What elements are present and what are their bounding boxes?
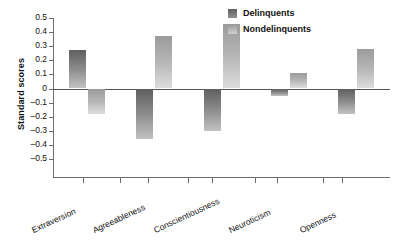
y-axis-tick bbox=[49, 74, 54, 75]
bar-delinquents bbox=[338, 89, 355, 114]
x-axis-tick bbox=[277, 177, 278, 183]
y-axis-tick-label: –0.5 bbox=[19, 153, 47, 164]
legend-label-nondelinquents: Nondelinquents bbox=[243, 24, 311, 34]
bar-delinquents bbox=[204, 89, 221, 131]
x-axis-category-label: Neuroticism bbox=[227, 207, 272, 235]
y-axis-tick bbox=[49, 60, 54, 61]
y-axis-title: Standard scores bbox=[16, 34, 26, 154]
y-axis-tick bbox=[49, 32, 54, 33]
bar-delinquents bbox=[136, 89, 153, 140]
x-axis-tick bbox=[83, 177, 84, 183]
y-axis-tick bbox=[49, 46, 54, 47]
x-axis-category-label: Openness bbox=[298, 210, 337, 235]
bar-nondelinquents bbox=[290, 73, 307, 89]
bar-nondelinquents bbox=[88, 89, 105, 114]
plot-area: 0.50.40.30.20.10–0.1–0.2–0.3–0.4–0.5 bbox=[53, 18, 390, 178]
y-axis-tick-label: 0.2 bbox=[19, 54, 47, 65]
legend-item-nondelinquents: Nondelinquents bbox=[228, 22, 311, 36]
y-axis-tick-label: 0.1 bbox=[19, 68, 47, 79]
x-axis-tick bbox=[148, 177, 149, 183]
legend-item-delinquents: Delinquents bbox=[228, 6, 311, 20]
x-axis-tick bbox=[212, 177, 213, 183]
bar-delinquents bbox=[69, 50, 86, 88]
x-axis-tick bbox=[323, 177, 324, 183]
nondelinquents-swatch-icon bbox=[228, 25, 237, 34]
chart-legend: Delinquents Nondelinquents bbox=[228, 6, 311, 38]
x-axis-category-label: Conscientiousness bbox=[152, 196, 221, 235]
y-axis-tick-label: –0.4 bbox=[19, 139, 47, 150]
x-axis-tick bbox=[120, 177, 121, 183]
bar-nondelinquents bbox=[155, 36, 172, 88]
x-axis-spine bbox=[53, 177, 390, 178]
y-axis-tick-label: –0.3 bbox=[19, 125, 47, 136]
y-axis-tick-label: 0 bbox=[19, 83, 47, 94]
y-axis-tick bbox=[49, 103, 54, 104]
x-axis-category-label: Extraversion bbox=[30, 206, 77, 235]
y-axis-tick-label: 0.4 bbox=[19, 26, 47, 37]
x-axis-tick bbox=[188, 177, 189, 183]
y-axis-tick bbox=[49, 159, 54, 160]
y-axis-tick bbox=[49, 18, 54, 19]
y-axis-tick-label: 0.3 bbox=[19, 40, 47, 51]
y-axis-tick bbox=[49, 145, 54, 146]
y-axis-tick bbox=[49, 117, 54, 118]
legend-label-delinquents: Delinquents bbox=[243, 8, 295, 18]
y-axis-tick-label: –0.2 bbox=[19, 111, 47, 122]
y-axis-tick-label: –0.1 bbox=[19, 97, 47, 108]
delinquents-swatch-icon bbox=[228, 9, 237, 18]
y-axis-tick bbox=[49, 131, 54, 132]
bar-delinquents bbox=[271, 89, 288, 96]
x-axis-category-label: Agreeableness bbox=[91, 202, 147, 235]
y-axis-tick-label: 0.5 bbox=[19, 12, 47, 23]
x-axis-tick bbox=[342, 177, 343, 183]
y-axis-spine bbox=[53, 18, 54, 178]
bar-nondelinquents bbox=[357, 49, 374, 88]
bar-chart-figure: Standard scores 0.50.40.30.20.10–0.1–0.2… bbox=[0, 0, 396, 243]
x-axis-tick bbox=[255, 177, 256, 183]
